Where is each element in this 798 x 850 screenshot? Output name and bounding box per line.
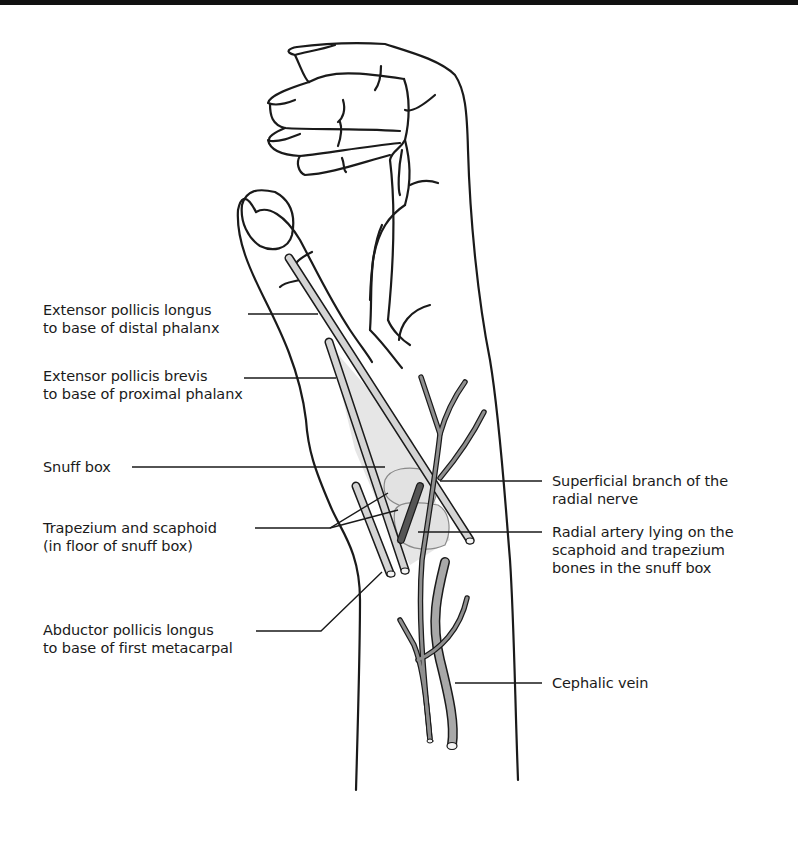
label-line: scaphoid and trapezium bbox=[552, 541, 734, 559]
label-snuff-box: Snuff box bbox=[43, 458, 111, 476]
leader-apl bbox=[256, 572, 382, 631]
label-line: Superficial branch of the bbox=[552, 472, 728, 490]
label-line: to base of distal phalanx bbox=[43, 319, 219, 337]
label-line: to base of proximal phalanx bbox=[43, 385, 243, 403]
label-line: Snuff box bbox=[43, 458, 111, 476]
label-line: (in floor of snuff box) bbox=[43, 537, 217, 555]
label-line: to base of first metacarpal bbox=[43, 639, 233, 657]
label-extensor-pollicis-brevis: Extensor pollicis brevis to base of prox… bbox=[43, 367, 243, 403]
label-cephalic-vein: Cephalic vein bbox=[552, 674, 648, 692]
cephalic-vein bbox=[435, 562, 457, 750]
label-line: Radial artery lying on the bbox=[552, 523, 734, 541]
label-line: bones in the snuff box bbox=[552, 559, 734, 577]
label-extensor-pollicis-longus: Extensor pollicis longus to base of dist… bbox=[43, 301, 219, 337]
label-abductor-pollicis-longus: Abductor pollicis longus to base of firs… bbox=[43, 621, 233, 657]
label-line: Cephalic vein bbox=[552, 674, 648, 692]
label-line: Abductor pollicis longus bbox=[43, 621, 233, 639]
label-line: radial nerve bbox=[552, 490, 728, 508]
label-line: Extensor pollicis longus bbox=[43, 301, 219, 319]
hand-illustration bbox=[0, 0, 798, 850]
label-line: Extensor pollicis brevis bbox=[43, 367, 243, 385]
label-superficial-radial-nerve: Superficial branch of the radial nerve bbox=[552, 472, 728, 508]
label-line: Trapezium and scaphoid bbox=[43, 519, 217, 537]
label-trapezium-scaphoid: Trapezium and scaphoid (in floor of snuf… bbox=[43, 519, 217, 555]
label-radial-artery: Radial artery lying on the scaphoid and … bbox=[552, 523, 734, 577]
